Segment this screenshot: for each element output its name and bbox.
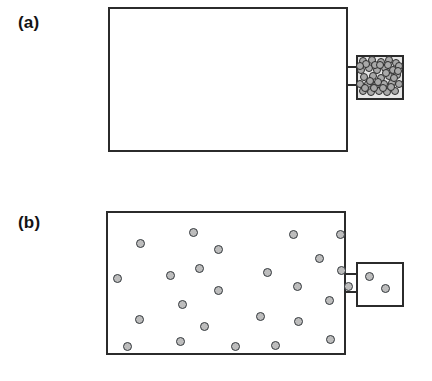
gas-particle bbox=[214, 286, 223, 295]
panel-a-label: (a) bbox=[18, 14, 39, 31]
gas-particle bbox=[337, 266, 346, 275]
gas-particle bbox=[256, 312, 265, 321]
gas-particle bbox=[365, 272, 374, 281]
gas-particle bbox=[178, 300, 187, 309]
gas-particle bbox=[166, 271, 175, 280]
gas-particle bbox=[381, 284, 390, 293]
gas-particle bbox=[289, 230, 298, 239]
gas-particle bbox=[123, 342, 132, 351]
gas-particle bbox=[325, 296, 334, 305]
gas-particle bbox=[135, 315, 144, 324]
panel-b-small-chamber bbox=[356, 262, 404, 307]
gas-particle bbox=[195, 264, 204, 273]
gas-particle bbox=[214, 245, 223, 254]
gas-particle bbox=[176, 337, 185, 346]
panel-a-small-chamber bbox=[356, 55, 404, 100]
panel-b: (b) bbox=[0, 190, 432, 381]
panel-a: (a) bbox=[0, 0, 432, 190]
gas-particle bbox=[315, 254, 324, 263]
gas-particle bbox=[294, 317, 303, 326]
gas-particle bbox=[326, 335, 335, 344]
gas-particle bbox=[293, 282, 302, 291]
figure-root: (a) (b) bbox=[0, 0, 432, 381]
gas-particle bbox=[344, 282, 353, 291]
gas-particle bbox=[231, 342, 240, 351]
gas-particle bbox=[189, 228, 198, 237]
gas-particle bbox=[263, 268, 272, 277]
gas-particle bbox=[200, 322, 209, 331]
gas-particle bbox=[113, 274, 122, 283]
panel-b-label: (b) bbox=[18, 214, 40, 231]
gas-particle bbox=[271, 341, 280, 350]
panel-b-large-chamber bbox=[106, 211, 346, 355]
gas-particle bbox=[336, 230, 345, 239]
gas-particle bbox=[136, 239, 145, 248]
panel-a-large-chamber bbox=[108, 7, 348, 152]
